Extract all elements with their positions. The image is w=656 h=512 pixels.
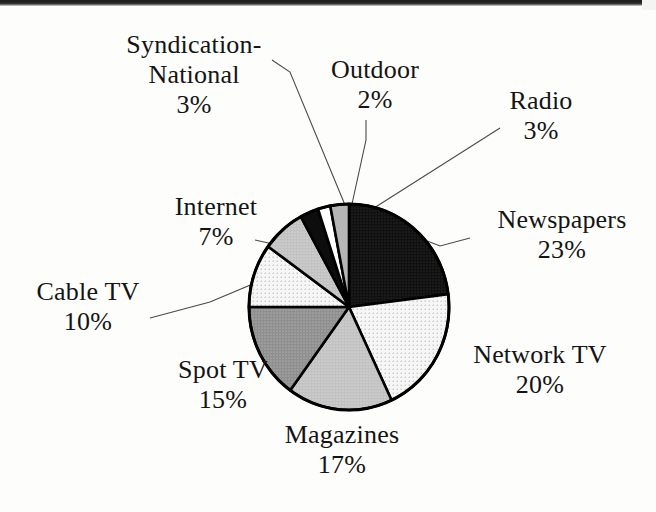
slice-label-percent: 23% bbox=[472, 235, 652, 265]
slice-label-outdoor: Outdoor 2% bbox=[300, 55, 450, 115]
pie-slice-newspapers bbox=[349, 204, 448, 307]
pie-chart-figure: Syndication- National 3% Outdoor 2% Radi… bbox=[0, 0, 656, 512]
slice-label-magazines: Magazines 17% bbox=[252, 420, 432, 480]
slice-label-percent: 15% bbox=[148, 385, 298, 415]
slice-label-percent: 3% bbox=[476, 116, 606, 146]
slice-label-text-line1: Spot TV bbox=[148, 355, 298, 385]
slice-label-spot-tv: Spot TV 15% bbox=[148, 355, 298, 415]
slice-label-network-tv: Network TV 20% bbox=[450, 340, 630, 400]
slice-label-text-line1: Magazines bbox=[252, 420, 432, 450]
slice-label-internet: Internet 7% bbox=[146, 192, 286, 252]
slice-label-radio: Radio 3% bbox=[476, 86, 606, 146]
slice-label-percent: 10% bbox=[8, 307, 168, 337]
slice-label-text-line2: National bbox=[88, 60, 300, 90]
slice-label-percent: 7% bbox=[146, 222, 286, 252]
slice-label-text-line1: Syndication- bbox=[88, 30, 300, 60]
slice-label-text-line1: Radio bbox=[476, 86, 606, 116]
slice-label-text-line1: Network TV bbox=[450, 340, 630, 370]
chart-stage: Syndication- National 3% Outdoor 2% Radi… bbox=[0, 0, 656, 512]
slice-label-text-line1: Newspapers bbox=[472, 205, 652, 235]
slice-label-newspapers: Newspapers 23% bbox=[472, 205, 652, 265]
slice-label-percent: 20% bbox=[450, 370, 630, 400]
slice-label-text-line1: Outdoor bbox=[300, 55, 450, 85]
slice-label-percent: 2% bbox=[300, 85, 450, 115]
slice-label-syndication-national: Syndication- National 3% bbox=[88, 30, 300, 120]
slice-label-text-line1: Cable TV bbox=[8, 277, 168, 307]
slice-label-cable-tv: Cable TV 10% bbox=[8, 277, 168, 337]
slice-label-percent: 3% bbox=[88, 90, 300, 120]
slice-label-percent: 17% bbox=[252, 450, 432, 480]
slice-label-text-line1: Internet bbox=[146, 192, 286, 222]
leader-line-outdoor bbox=[352, 120, 366, 204]
